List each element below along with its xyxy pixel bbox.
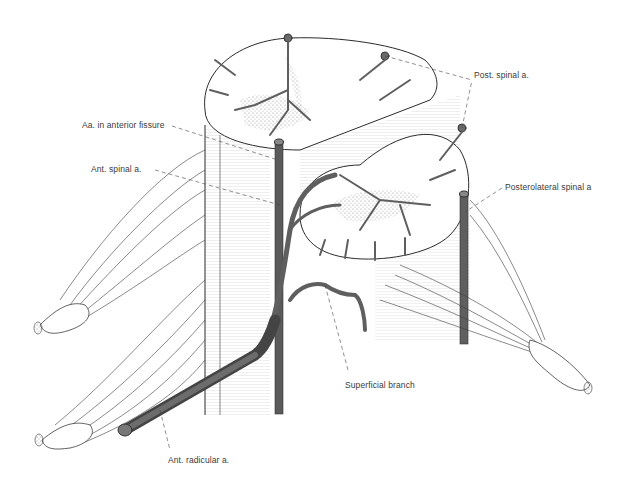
spinal-ganglion-upper-left [34, 304, 89, 334]
label-ant-radicular-artery: Ant. radicular a. [168, 455, 229, 465]
label-arteries-in-anterior-fissure: Aa. in anterior fissure [82, 120, 165, 130]
label-ant-spinal-artery: Ant. spinal a. [91, 164, 142, 174]
spinal-ganglion-lower-left [35, 423, 92, 449]
label-post-spinal-artery: Post. spinal a. [474, 70, 529, 80]
superficial-branch-artery [290, 284, 365, 330]
post-spinal-artery-cross [284, 34, 292, 42]
label-posterolateral-spinal-artery: Posterolateral spinal a [505, 182, 591, 192]
label-superficial-branch: Superficial branch [345, 380, 415, 390]
spinal-ganglion-right [529, 340, 592, 394]
spinal-cord-arterial-illustration [0, 0, 627, 495]
posterolateral-spinal-artery [460, 194, 468, 344]
